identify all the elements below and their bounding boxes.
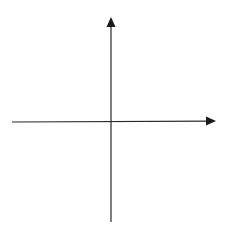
x-axis-arrow-icon [206,117,216,126]
axes-diagram [0,0,228,230]
y-axis-arrow-icon [107,17,116,27]
diagram-canvas [0,0,228,230]
